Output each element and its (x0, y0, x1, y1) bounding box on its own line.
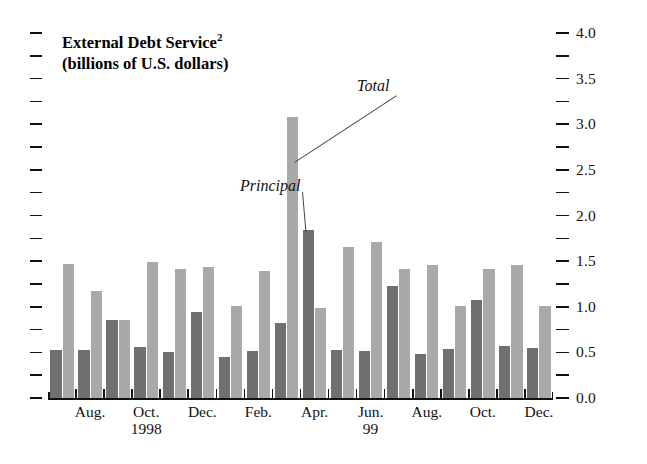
y-axis-tick (556, 101, 569, 103)
y-axis-tick (556, 215, 569, 217)
bar-principal (191, 312, 202, 398)
y-axis-tick (556, 146, 569, 148)
y-axis-tick (30, 260, 42, 262)
x-axis-tick-label: Aug. (411, 403, 442, 420)
bar-total (343, 247, 354, 398)
x-axis-tick (300, 389, 302, 398)
x-axis-tick (244, 389, 246, 398)
y-axis-ticks-right (556, 33, 570, 398)
bar-principal (359, 351, 370, 398)
x-axis-tick (216, 389, 218, 398)
y-axis-tick-label: 2.0 (576, 208, 596, 224)
y-axis-tick (556, 306, 569, 308)
bar-total (91, 291, 102, 398)
y-axis-tick (30, 215, 42, 217)
annotation-principal-label: Principal (240, 178, 300, 194)
bar-total (203, 267, 214, 398)
y-axis-tick (30, 283, 42, 285)
y-axis-tick (30, 352, 42, 354)
bar-total (511, 265, 522, 398)
x-axis-tick-label: Apr. (301, 403, 328, 420)
y-axis-tick (556, 352, 569, 354)
x-axis-tick-label: Feb. (245, 403, 272, 420)
x-axis-month-label: Jun. (358, 403, 383, 420)
x-axis-month-label: Aug. (411, 403, 442, 420)
y-axis-tick (30, 123, 42, 125)
bar-total (119, 320, 130, 398)
x-axis-tick (412, 389, 414, 398)
y-axis-tick (30, 238, 42, 240)
bar-principal (471, 300, 482, 398)
x-axis-tick (103, 389, 105, 398)
bar-principal (443, 349, 454, 398)
y-axis-tick (556, 260, 569, 262)
y-axis-tick (30, 306, 42, 308)
y-axis-tick (30, 397, 42, 399)
x-axis-tick (496, 389, 498, 398)
bar-total (483, 269, 494, 398)
annotation-total-label: Total (357, 78, 389, 94)
bar-total (147, 262, 158, 398)
bar-principal (219, 357, 230, 398)
bar-principal (387, 286, 398, 398)
bar-principal (106, 320, 117, 398)
y-axis-tick (556, 329, 569, 331)
x-axis-tick (131, 389, 133, 398)
x-axis-tick (356, 389, 358, 398)
y-axis-tick-label: 1.5 (576, 253, 596, 269)
y-axis-tick (556, 169, 569, 171)
y-axis-tick (30, 169, 42, 171)
x-axis-tick-label: Oct. (470, 403, 496, 420)
bar-principal (415, 354, 426, 398)
bar-total (175, 269, 186, 398)
y-axis-tick (556, 123, 569, 125)
y-axis-tick (556, 238, 569, 240)
x-axis-tick (468, 389, 470, 398)
y-axis-tick (556, 397, 569, 399)
x-axis-endcap-left (48, 392, 50, 399)
plot-area (48, 33, 553, 398)
y-axis-tick (30, 32, 42, 34)
x-axis-tick (328, 389, 330, 398)
bar-total (427, 265, 438, 398)
bar-principal (134, 347, 145, 398)
x-axis-tick-label: Dec. (525, 403, 554, 420)
x-axis-tick-label: Aug. (75, 403, 106, 420)
y-axis-tick (556, 283, 569, 285)
y-axis-tick-label: 3.0 (576, 116, 596, 132)
bar-principal (247, 351, 258, 398)
y-axis-tick (556, 55, 569, 57)
x-axis-tick-label: Oct.1998 (131, 403, 162, 437)
y-axis-tick-label: 3.5 (576, 71, 596, 87)
y-axis-tick (30, 329, 42, 331)
chart-figure: External Debt Service2 (billions of U.S.… (0, 0, 647, 464)
y-axis-tick (30, 101, 42, 103)
x-axis-tick-label: Jun.99 (358, 403, 383, 437)
y-axis-tick-label: 0.5 (576, 344, 596, 360)
y-axis-tick (30, 146, 42, 148)
bar-total (399, 269, 410, 398)
y-axis-tick (556, 78, 569, 80)
bar-total (63, 264, 74, 398)
x-axis-month-label: Apr. (301, 403, 328, 420)
bar-total (455, 306, 466, 398)
bar-total (259, 271, 270, 398)
y-axis-tick (30, 374, 42, 376)
bar-principal (163, 352, 174, 398)
bar-total (231, 306, 242, 398)
x-axis-tick (187, 389, 189, 398)
bar-principal (78, 350, 89, 398)
y-axis-tick-label: 1.0 (576, 299, 596, 315)
y-axis-tick (556, 192, 569, 194)
x-axis-year-label: 1998 (131, 420, 162, 437)
x-axis-baseline (48, 398, 553, 400)
y-axis-tick-label: 2.5 (576, 162, 596, 178)
y-axis-tick-label: 4.0 (576, 25, 596, 41)
x-axis-month-label: Oct. (470, 403, 496, 420)
x-axis-month-label: Feb. (245, 403, 272, 420)
bar-total (371, 242, 382, 398)
x-axis-month-label: Aug. (75, 403, 106, 420)
y-axis-tick (30, 192, 42, 194)
bar-principal (275, 323, 286, 398)
bar-total (315, 308, 326, 398)
